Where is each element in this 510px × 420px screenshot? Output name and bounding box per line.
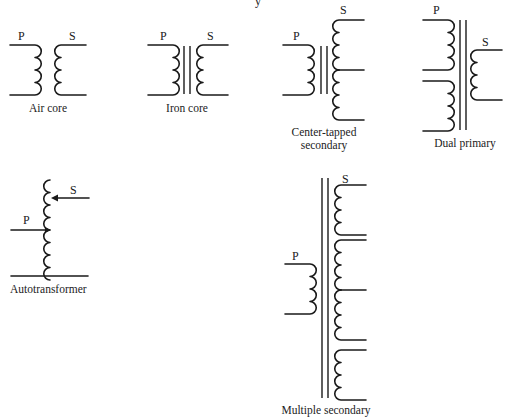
caption-center-tapped-1: Center-tapped [292,126,357,139]
dual-primary-transformer: P S Dual primary [423,3,502,150]
secondary-label: S [207,29,214,43]
secondary-label: S [340,3,347,17]
autotransformer: S P Autotransformer [10,180,89,295]
multiple-secondary-transformer: S P Multiple secondary [281,172,370,417]
secondary-label: S [342,172,349,186]
primary-winding [148,45,179,95]
secondary-winding-lower [333,70,364,120]
primary-label: P [160,29,167,43]
tap-arrow-icon [51,195,58,202]
secondary-winding-2-lower [335,290,366,340]
secondary-winding [197,45,228,95]
caption-iron-core: Iron core [166,102,208,114]
secondary-winding [55,45,86,95]
caption-air-core: Air core [29,102,67,114]
primary-label: P [293,29,300,43]
caption-center-tapped-2: secondary [301,139,348,152]
secondary-label: S [482,35,489,49]
primary-label: P [433,3,440,17]
air-core-transformer: P S Air core [10,29,86,114]
secondary-winding-1 [335,185,366,235]
caption-dual-primary: Dual primary [434,137,496,150]
primary-label: P [23,213,30,227]
primary-label: P [18,29,25,43]
primary-winding-upper [423,20,454,70]
caption-autotransformer: Autotransformer [10,283,87,295]
transformer-types-diagram: y P S Air core P S Iron core P S Center-… [0,0,510,420]
secondary-winding [471,50,502,100]
secondary-label: S [69,29,76,43]
primary-winding-lower [423,81,454,131]
secondary-winding-3 [335,350,366,400]
secondary-winding-2-upper [335,240,366,290]
secondary-label: S [70,183,77,197]
title-fragment: y [255,0,261,8]
primary-label: P [292,249,299,263]
caption-multiple-secondary: Multiple secondary [281,404,370,417]
secondary-winding-upper [333,20,364,70]
center-tapped-transformer: P S Center-tapped secondary [283,3,364,152]
primary-arrow-icon [45,227,51,233]
primary-winding [10,45,41,95]
iron-core-transformer: P S Iron core [148,29,228,114]
primary-winding [283,45,314,95]
primary-winding [285,264,316,314]
